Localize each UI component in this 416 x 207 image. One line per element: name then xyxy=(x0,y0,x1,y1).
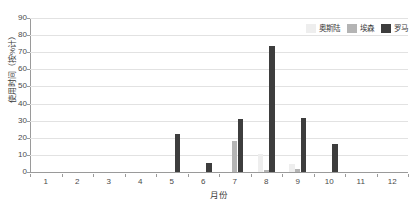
bar xyxy=(232,141,237,172)
x-tick-label: 8 xyxy=(251,177,283,186)
grid-line xyxy=(30,104,408,105)
bar xyxy=(269,46,274,172)
x-tick-label: 3 xyxy=(93,177,125,186)
grid-line xyxy=(30,35,408,36)
x-tick-mark xyxy=(377,174,378,177)
chart-legend: 奥斯陆埃森罗马 xyxy=(306,24,408,33)
x-tick-mark xyxy=(282,174,283,177)
bar xyxy=(206,163,211,172)
legend-swatch-icon xyxy=(381,24,391,33)
x-tick-label: 12 xyxy=(377,177,409,186)
x-tick-mark xyxy=(93,174,94,177)
x-tick-mark xyxy=(314,174,315,177)
x-tick-label: 2 xyxy=(62,177,94,186)
legend-swatch-icon xyxy=(306,24,316,33)
x-tick-label: 10 xyxy=(314,177,346,186)
legend-item[interactable]: 埃森 xyxy=(347,24,374,33)
bar xyxy=(238,119,243,172)
x-tick-mark xyxy=(30,174,31,177)
grid-line xyxy=(30,86,408,87)
grid-line xyxy=(30,121,408,122)
legend-item[interactable]: 罗马 xyxy=(381,24,408,33)
legend-item[interactable]: 奥斯陆 xyxy=(306,24,340,33)
bar xyxy=(258,154,263,172)
bar xyxy=(175,134,180,172)
grid-line xyxy=(30,18,408,19)
bar xyxy=(301,118,306,172)
x-tick-label: 6 xyxy=(188,177,220,186)
y-tick-label: 10 xyxy=(3,151,27,159)
x-tick-mark xyxy=(125,174,126,177)
bar xyxy=(332,144,337,172)
x-tick-label: 11 xyxy=(345,177,377,186)
legend-label: 罗马 xyxy=(394,24,408,33)
bar-chart: 0102030405060708090 使用时间（按%计） 1234567891… xyxy=(0,0,416,207)
grid-line xyxy=(30,69,408,70)
x-tick-label: 1 xyxy=(30,177,62,186)
x-tick-label: 7 xyxy=(219,177,251,186)
grid-line xyxy=(30,138,408,139)
plot-area xyxy=(30,18,408,172)
bar xyxy=(289,164,294,172)
x-tick-mark xyxy=(62,174,63,177)
grid-line xyxy=(30,52,408,53)
y-axis-title: 使用时间（按%计） xyxy=(6,13,17,123)
x-axis-labels: 123456789101112 xyxy=(30,174,408,188)
legend-swatch-icon xyxy=(347,24,357,33)
x-tick-mark xyxy=(156,174,157,177)
legend-label: 埃森 xyxy=(360,24,374,33)
x-axis-line xyxy=(30,172,408,173)
y-tick-label: 20 xyxy=(3,134,27,142)
y-tick-label: 0 xyxy=(3,168,27,176)
x-tick-mark xyxy=(408,174,409,177)
x-tick-mark xyxy=(219,174,220,177)
x-tick-label: 9 xyxy=(282,177,314,186)
x-tick-label: 4 xyxy=(125,177,157,186)
x-tick-mark xyxy=(251,174,252,177)
grid-line xyxy=(30,155,408,156)
x-axis-title: 月份 xyxy=(30,188,408,200)
x-tick-label: 5 xyxy=(156,177,188,186)
x-tick-mark xyxy=(188,174,189,177)
x-tick-mark xyxy=(345,174,346,177)
legend-label: 奥斯陆 xyxy=(319,24,340,33)
